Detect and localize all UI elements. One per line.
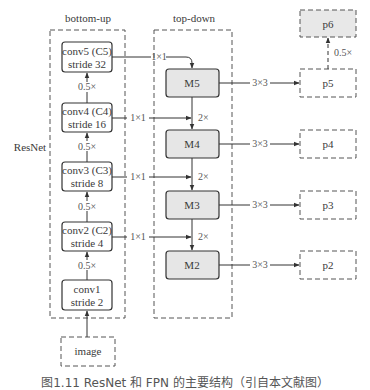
- node-m2: M2: [166, 251, 219, 279]
- figure-caption: 图1.11 ResNet 和 FPN 的主要结构（引自本文献图）: [0, 373, 370, 390]
- svg-text:p2: p2: [323, 259, 334, 271]
- output-conv-label-p5: 3×3: [252, 77, 268, 88]
- upsample-label-m4: 2×: [198, 112, 209, 123]
- svg-text:M2: M2: [184, 259, 199, 271]
- top-down-title: top-down: [173, 12, 216, 24]
- svg-text:p4: p4: [323, 138, 335, 150]
- node-m5: M5: [166, 69, 219, 97]
- downsample-label-c3: 0.5×: [78, 201, 96, 212]
- bottom-up-title: bottom-up: [65, 12, 111, 24]
- stage-conv2: conv2 (C2) stride 4: [62, 222, 112, 251]
- svg-text:p5: p5: [323, 77, 335, 89]
- p6-downsample-label: 0.5×: [334, 47, 352, 58]
- upsample-label-m2: 2×: [198, 231, 209, 242]
- upsample-label-m3: 2×: [198, 171, 209, 182]
- output-conv-label-p4: 3×3: [252, 138, 268, 149]
- svg-text:stride 4: stride 4: [71, 237, 104, 249]
- svg-text:image: image: [75, 345, 102, 357]
- svg-text:stride 8: stride 8: [71, 177, 104, 189]
- output-conv-label-p2: 3×3: [252, 259, 268, 270]
- node-m3: M3: [166, 191, 219, 219]
- stage-conv3: conv3 (C3) stride 8: [62, 162, 112, 191]
- output-p5: p5: [300, 69, 356, 97]
- output-conv-label-p3: 3×3: [252, 199, 268, 210]
- image-input: image: [61, 337, 115, 366]
- output-arrows: [219, 83, 299, 265]
- svg-text:stride 16: stride 16: [68, 118, 107, 130]
- svg-text:conv4 (C4): conv4 (C4): [62, 105, 112, 118]
- svg-text:stride 32: stride 32: [68, 58, 106, 70]
- downsample-label-c5: 0.5×: [78, 81, 96, 92]
- output-p3: p3: [300, 191, 356, 219]
- lateral-label-c5: 1×1: [151, 51, 167, 62]
- svg-text:M5: M5: [184, 77, 200, 89]
- downsample-label-c2: 0.5×: [78, 260, 96, 271]
- svg-text:conv2 (C2): conv2 (C2): [62, 224, 112, 237]
- stage-conv1: conv1 stride 2: [62, 280, 112, 310]
- svg-text:conv3 (C3): conv3 (C3): [62, 164, 112, 177]
- downsample-label-c4: 0.5×: [78, 141, 96, 152]
- svg-text:M3: M3: [184, 199, 200, 211]
- output-p6: p6: [300, 10, 356, 37]
- svg-text:M4: M4: [184, 138, 200, 150]
- output-p4: p4: [300, 130, 356, 158]
- stage-conv4: conv4 (C4) stride 16: [62, 103, 112, 132]
- svg-text:conv1: conv1: [74, 283, 101, 295]
- svg-text:stride 2: stride 2: [71, 296, 104, 308]
- lateral-label-c3: 1×1: [130, 171, 146, 182]
- output-p2: p2: [300, 251, 356, 279]
- lateral-label-c2: 1×1: [130, 231, 146, 242]
- lateral-label-c4: 1×1: [130, 112, 146, 123]
- node-m4: M4: [166, 130, 219, 158]
- svg-text:p3: p3: [323, 199, 335, 211]
- resnet-label: ResNet: [14, 141, 46, 153]
- svg-text:p6: p6: [323, 18, 335, 30]
- stage-conv5: conv5 (C5) stride 32: [62, 42, 112, 72]
- svg-text:conv5 (C5): conv5 (C5): [62, 45, 112, 58]
